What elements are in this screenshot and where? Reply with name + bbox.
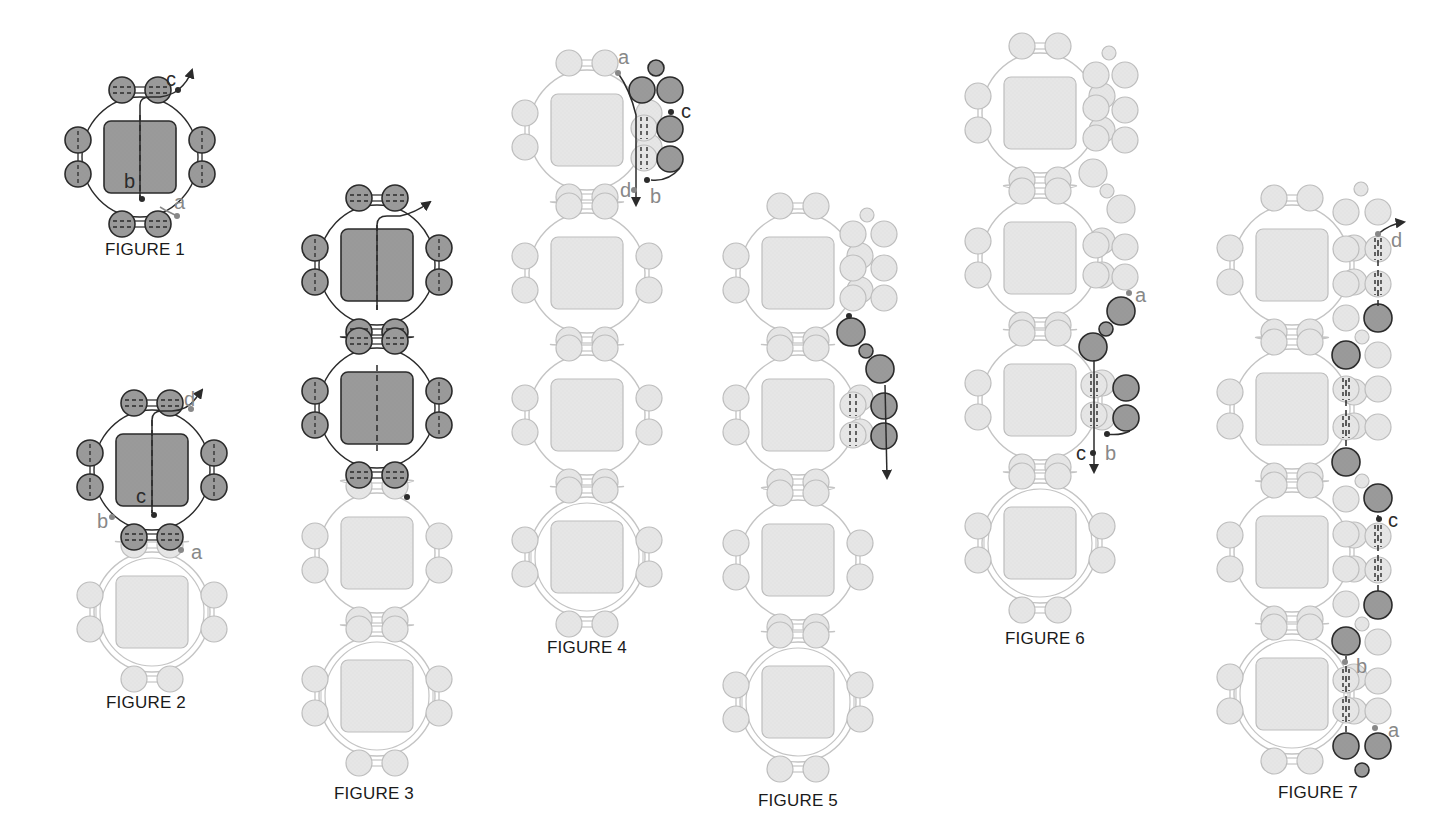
bead-icon	[1217, 522, 1243, 548]
bead-icon	[592, 477, 618, 503]
bead-icon	[121, 390, 147, 416]
bead-passed-icon	[1333, 376, 1359, 402]
bead-icon	[1009, 320, 1035, 346]
figure-caption-2: FIGURE 2	[106, 693, 186, 713]
figure-3	[302, 185, 452, 776]
bead-icon	[803, 480, 829, 506]
bead-icon	[1297, 185, 1323, 211]
bead-icon	[426, 378, 452, 404]
bead-icon	[1333, 486, 1359, 512]
bead-icon	[426, 412, 452, 438]
bead-icon	[1333, 236, 1359, 262]
bead-icon	[1217, 269, 1243, 295]
bead-icon	[1354, 182, 1368, 196]
bead-icon	[636, 527, 662, 553]
bead-icon	[657, 116, 683, 142]
thread-point-marker	[109, 514, 115, 520]
bead-icon	[302, 523, 328, 549]
figure-caption-7: FIGURE 7	[1278, 783, 1358, 803]
bead-icon	[302, 269, 328, 295]
bead-icon	[1332, 627, 1360, 655]
figure-caption-5: FIGURE 5	[758, 791, 838, 811]
bead-icon	[723, 706, 749, 732]
square-bead-unit	[302, 616, 452, 776]
step-label-a: a	[191, 541, 203, 563]
bead-icon	[1332, 341, 1360, 369]
bead-icon	[382, 616, 408, 642]
bead-icon	[302, 557, 328, 583]
bead-icon	[1113, 405, 1139, 431]
bead-icon	[382, 328, 408, 354]
bead-icon	[512, 385, 538, 411]
thread-point-marker	[139, 196, 145, 202]
thread-point-marker	[1342, 659, 1348, 665]
bead-icon	[803, 622, 829, 648]
figure-caption-3: FIGURE 3	[334, 784, 414, 804]
bead-icon	[1332, 448, 1360, 476]
bead-icon	[1100, 184, 1114, 198]
bead-icon	[592, 335, 618, 361]
bead-icon	[77, 616, 103, 642]
bead-icon	[1355, 474, 1369, 488]
bead-icon	[767, 756, 793, 782]
bead-icon	[860, 208, 874, 222]
bead-icon	[847, 706, 873, 732]
bead-icon	[189, 127, 215, 153]
bead-icon	[556, 611, 582, 637]
bead-icon	[1083, 95, 1109, 121]
bead-icon	[1009, 33, 1035, 59]
bead-icon	[556, 477, 582, 503]
bead-icon	[426, 269, 452, 295]
square-bead-unit	[512, 477, 662, 637]
bead-icon	[1083, 262, 1109, 288]
bead-icon	[1355, 617, 1369, 631]
step-label-c: c	[681, 100, 691, 122]
bead-icon	[1355, 330, 1369, 344]
beading-diagram-canvas: cbadcbaacbdabcdcba	[0, 0, 1454, 825]
bead-icon	[1333, 591, 1359, 617]
bead-icon	[1297, 472, 1323, 498]
bead-icon	[837, 318, 865, 346]
bead-icon	[636, 419, 662, 445]
bead-icon	[871, 221, 897, 247]
square-bead-unit	[512, 193, 662, 353]
bead-icon	[1217, 556, 1243, 582]
bead-icon	[840, 285, 866, 311]
bead-icon	[1333, 199, 1359, 225]
bead-icon	[1112, 127, 1138, 153]
bead-icon	[1333, 305, 1359, 331]
bead-icon	[965, 83, 991, 109]
bead-icon	[1089, 547, 1115, 573]
step-label-d: d	[184, 388, 195, 410]
bead-icon	[426, 666, 452, 692]
bead-icon	[302, 412, 328, 438]
thread-point-marker	[174, 213, 180, 219]
bead-icon	[847, 530, 873, 556]
bead-icon	[592, 193, 618, 219]
bead-icon	[65, 127, 91, 153]
bead-icon	[1099, 322, 1113, 336]
bead-icon	[77, 440, 103, 466]
bead-icon	[847, 672, 873, 698]
bead-passed-icon	[631, 145, 657, 171]
bead-icon	[1083, 125, 1109, 151]
bead-icon	[512, 100, 538, 126]
bead-icon	[866, 355, 894, 383]
bead-icon	[1333, 556, 1359, 582]
bead-icon	[157, 390, 183, 416]
thread-point-marker	[615, 70, 621, 76]
bead-icon	[1355, 763, 1369, 777]
thread-point-marker	[644, 177, 650, 183]
figure-2: dcba	[77, 388, 227, 692]
bead-icon	[1102, 46, 1116, 60]
bead-icon	[723, 564, 749, 590]
bead-icon	[512, 419, 538, 445]
bead-icon	[1217, 413, 1243, 439]
bead-icon	[965, 228, 991, 254]
bead-icon	[1297, 614, 1323, 640]
bead-icon	[157, 666, 183, 692]
bead-icon	[767, 193, 793, 219]
square-bead-unit	[723, 480, 873, 640]
bead-passed-icon	[840, 422, 866, 448]
thread-point-marker	[668, 109, 674, 115]
